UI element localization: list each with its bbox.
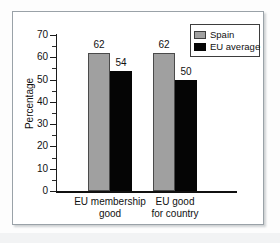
bar-value-label: 54 [102,57,140,68]
black-swatch [194,43,206,51]
bar-eu-average [175,80,197,191]
bar-eu-average [110,71,132,191]
y-tick-major [50,191,56,192]
y-tick-minor [52,135,56,136]
gray-swatch [194,31,206,39]
x-axis-category-label-line: EU good [130,196,220,208]
y-tick-label: 70 [24,30,48,40]
y-tick-label: 10 [24,164,48,174]
legend-item-label: Spain [210,30,234,40]
chart-frame: 706050403020100 Percentage 62546250 EU m… [12,11,264,225]
figure-page: 706050403020100 Percentage 62546250 EU m… [0,0,280,243]
y-tick-label-text: 0 [26,186,48,196]
bar-spain [88,53,110,191]
bar-value-label: 62 [80,39,118,50]
y-tick-minor [52,68,56,69]
y-tick-major [50,35,56,36]
y-tick-label-text: 70 [26,30,48,40]
bar-value-label: 62 [145,39,183,50]
y-tick-major [50,57,56,58]
y-tick-label: 0 [24,186,48,196]
bar-value-label: 50 [167,66,205,77]
y-tick-minor [52,180,56,181]
y-tick-label-text: 10 [26,164,48,174]
plot-area: 706050403020100 Percentage 62546250 EU m… [13,12,265,226]
y-axis-line [56,34,57,192]
y-axis-title: Percentage [24,58,35,150]
y-tick-minor [52,113,56,114]
y-tick-major [50,146,56,147]
y-tick-major [50,124,56,125]
legend-item[interactable]: Spain [194,29,255,40]
scan-background-band [0,233,280,243]
x-axis-line [56,191,237,193]
chart-legend: SpainEU average [190,24,260,57]
y-tick-minor [52,158,56,159]
y-tick-major [50,169,56,170]
x-axis-category-label-line: for country [130,208,220,220]
legend-item[interactable]: EU average [194,41,255,52]
y-tick-major [50,102,56,103]
y-tick-minor [52,46,56,47]
legend-item-label: EU average [210,42,260,52]
x-axis-category-label: EU goodfor country [130,196,220,220]
y-tick-minor [52,91,56,92]
y-tick-major [50,80,56,81]
